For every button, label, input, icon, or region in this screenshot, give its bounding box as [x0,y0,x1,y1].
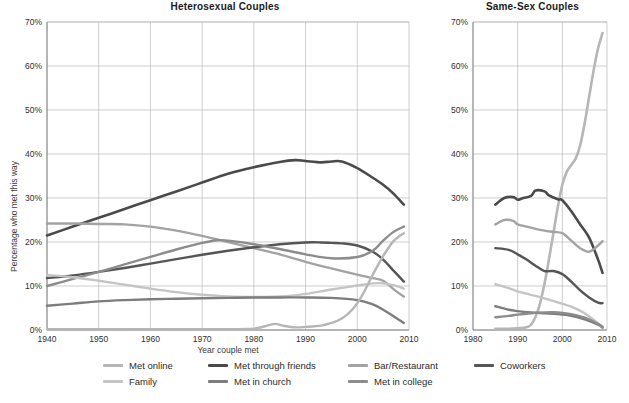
legend-swatch-icon [103,364,123,367]
x-tick-label: 2010 [598,334,617,344]
y-tick-label: 60% [451,61,468,71]
legend-label: Coworkers [500,360,545,371]
legend-label: Met in church [234,376,291,387]
y-tick-label: 30% [25,193,42,203]
legend-item-met-in-church[interactable]: Met in church [208,376,291,387]
legend-label: Met online [129,360,173,371]
y-tick-label: 50% [25,105,42,115]
legend-item-family[interactable]: Family [103,376,157,387]
x-tick-label: 1980 [464,334,483,344]
x-tick-label: 1970 [193,334,212,344]
legend-item-met-through-friends[interactable]: Met through friends [208,360,316,371]
line-chart-heterosexual: 0%10%20%30%40%50%60%70%19401950196019701… [0,0,420,360]
x-axis-title-heterosexual: Year couple met [47,345,409,355]
series-line-met-online [495,33,602,329]
series-line-bar-restaurant [495,220,602,252]
legend-swatch-icon [348,364,368,367]
y-tick-label: 20% [451,237,468,247]
y-tick-label: 30% [451,193,468,203]
x-tick-label: 1960 [141,334,160,344]
legend-swatch-icon [474,364,494,367]
figure-root: Heterosexual Couples 0%10%20%30%40%50%60… [0,0,629,403]
legend-item-coworkers[interactable]: Coworkers [474,360,545,371]
legend-label: Met in college [374,376,433,387]
legend-item-met-online[interactable]: Met online [103,360,173,371]
legend-swatch-icon [348,380,368,383]
y-tick-label: 40% [25,149,42,159]
x-tick-label: 1950 [89,334,108,344]
y-tick-label: 70% [25,17,42,27]
x-tick-label: 1990 [508,334,527,344]
legend-item-bar-restaurant[interactable]: Bar/Restaurant [348,360,438,371]
legend-swatch-icon [103,380,123,383]
y-tick-label: 10% [25,281,42,291]
y-tick-label: 20% [25,237,42,247]
series-line-met-in-church [495,306,602,327]
x-tick-label: 1990 [296,334,315,344]
y-tick-label: 60% [25,61,42,71]
x-tick-label: 2000 [553,334,572,344]
legend-label: Bar/Restaurant [374,360,438,371]
legend-swatch-icon [208,380,228,383]
y-tick-label: 50% [451,105,468,115]
y-tick-label: 10% [451,281,468,291]
chart-panel-heterosexual: Heterosexual Couples 0%10%20%30%40%50%60… [0,0,420,360]
chart-legend: Met onlineMet through friendsBar/Restaur… [0,360,629,403]
series-line-coworkers [47,242,404,281]
x-tick-label: 2010 [400,334,419,344]
x-tick-label: 1980 [244,334,263,344]
x-tick-label: 1940 [38,334,57,344]
legend-label: Met through friends [234,360,316,371]
y-tick-label: 70% [451,17,468,27]
y-axis-title-heterosexual: Percentage who met this way [9,161,19,272]
x-tick-label: 2000 [348,334,367,344]
y-tick-label: 40% [451,149,468,159]
legend-item-met-in-college[interactable]: Met in college [348,376,433,387]
series-line-met-in-college [47,227,404,286]
legend-label: Family [129,376,157,387]
chart-panel-same-sex: Same-Sex Couples 0%10%20%30%40%50%60%70%… [420,0,629,360]
legend-swatch-icon [208,364,228,367]
line-chart-same-sex: 0%10%20%30%40%50%60%70%1980199020002010 [420,0,629,360]
